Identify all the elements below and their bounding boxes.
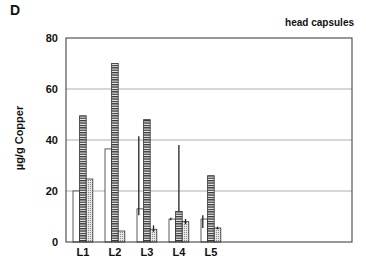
bar	[80, 116, 87, 242]
bar	[112, 64, 119, 243]
y-tick-label: 60	[46, 83, 58, 95]
y-tick-label: 80	[46, 32, 58, 44]
bars	[73, 64, 221, 243]
bar	[169, 219, 176, 242]
bar	[201, 219, 208, 242]
bar-chart: 020406080L1L2L3L4L5	[0, 0, 366, 265]
x-tick-label: L5	[204, 246, 217, 258]
bar	[137, 209, 144, 242]
bar	[73, 191, 80, 242]
bar	[176, 211, 183, 242]
bar	[105, 149, 112, 242]
x-tick-label: L3	[140, 246, 153, 258]
y-tick-label: 0	[52, 236, 58, 248]
x-tick-label: L2	[108, 246, 121, 258]
y-tick-label: 20	[46, 185, 58, 197]
bar	[208, 176, 215, 242]
x-tick-label: L1	[76, 246, 89, 258]
bar	[182, 222, 189, 242]
y-tick-label: 40	[46, 134, 58, 146]
bar	[86, 179, 93, 242]
x-tick-label: L4	[172, 246, 186, 258]
bar	[144, 120, 151, 242]
bar	[214, 228, 221, 242]
bar	[118, 231, 125, 242]
